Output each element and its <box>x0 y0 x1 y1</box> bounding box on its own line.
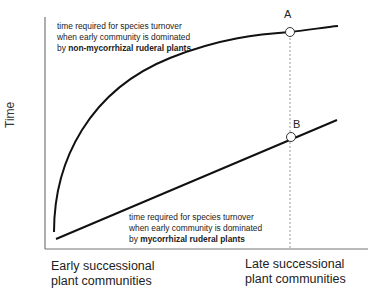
annotation-prefix: by <box>129 234 140 244</box>
annotation-mycorrhizal: time required for species turnover when … <box>129 212 262 245</box>
point-b-label: B <box>293 118 300 130</box>
x-label-early-line1: Early successional <box>51 259 155 274</box>
x-label-early-line2: plant communities <box>51 274 155 289</box>
annotation-emphasis: non-mycorrhizal ruderal plants <box>68 43 191 53</box>
point-a-marker <box>286 28 295 37</box>
annotation-non-mycorrhizal: time required for species turnover when … <box>57 21 191 54</box>
annotation-prefix: by <box>57 43 68 53</box>
annotation-emphasis: mycorrhizal ruderal plants <box>140 234 245 244</box>
annotation-line: when early community is dominated <box>57 32 191 43</box>
annotation-line: time required for species turnover <box>129 212 262 223</box>
annotation-line: when early community is dominated <box>129 223 262 234</box>
annotation-line: by non-mycorrhizal ruderal plants <box>57 43 191 54</box>
point-b-marker <box>287 133 296 142</box>
y-axis-label: Time <box>3 102 17 128</box>
x-label-late-line2: plant communities <box>245 272 346 287</box>
annotation-line: by mycorrhizal ruderal plants <box>129 234 262 245</box>
annotation-line: time required for species turnover <box>57 21 191 32</box>
point-a-label: A <box>284 8 291 20</box>
x-label-late: Late successional plant communities <box>245 257 346 287</box>
x-label-early: Early successional plant communities <box>51 259 155 289</box>
x-label-late-line1: Late successional <box>245 257 346 272</box>
